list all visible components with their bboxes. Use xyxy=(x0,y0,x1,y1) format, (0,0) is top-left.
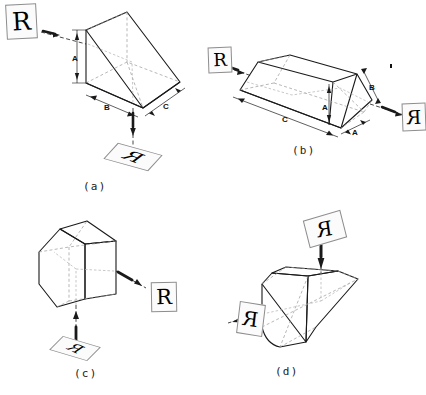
prism-d-hidden-edges xyxy=(262,267,358,347)
image-tile-b-output-glyph: R xyxy=(407,107,422,126)
dimension-label-b-A-vertical: A xyxy=(322,103,328,112)
image-tile-d-output-glyph: R xyxy=(242,308,259,330)
image-tile-a-input: R xyxy=(5,3,38,40)
caption-d: (d) xyxy=(275,365,298,378)
prism-b-front-face xyxy=(240,62,357,128)
prism-a-internal-ray xyxy=(88,44,133,104)
stray-mark xyxy=(390,64,392,68)
caption-a: (a) xyxy=(83,180,106,193)
prism-b-right-end-face xyxy=(341,74,372,128)
dimension-label-b-C: C xyxy=(282,115,288,124)
prism-d-roof-face xyxy=(306,271,358,342)
panel-c-drawing xyxy=(10,205,210,395)
prism-c-front-face xyxy=(39,229,85,307)
image-tile-b-input: R xyxy=(208,47,233,74)
prism-d-top-face xyxy=(272,267,338,276)
dimension-label-b-B: B xyxy=(369,83,375,92)
dimension-label-a-A: A xyxy=(72,54,78,63)
image-tile-b-output: R xyxy=(402,103,426,132)
panel-b-drawing: C A A B xyxy=(200,20,416,200)
image-tile-d-input-glyph: R xyxy=(316,218,334,241)
prism-c-outgoing-ray xyxy=(116,271,146,288)
panel-b-dove-prism: C A A B R R xyxy=(200,20,416,200)
dimension-label-a-C: C xyxy=(163,102,169,111)
prism-a-hypotenuse-face xyxy=(86,12,180,108)
prism-c-internal-ray xyxy=(54,252,114,305)
prism-b-top-face xyxy=(258,55,357,82)
prism-a-incoming-ray xyxy=(41,31,86,44)
image-tile-d-output: R xyxy=(236,301,266,337)
dimension-label-a-B: B xyxy=(104,103,110,112)
caption-c: (c) xyxy=(74,367,97,380)
prism-c-hidden-edges xyxy=(39,221,116,307)
dimension-label-b-A-base: A xyxy=(352,128,358,137)
panel-c-pentaprism: R R (c) xyxy=(10,205,210,395)
prism-c-roof-face xyxy=(60,221,116,244)
image-tile-c-output: R xyxy=(151,282,178,312)
image-tile-a-output-glyph: R xyxy=(118,149,147,166)
caption-b: (b) xyxy=(292,144,315,157)
panel-a-right-angle-prism: A B C R R (a) xyxy=(0,0,210,200)
image-tile-c-input-glyph: R xyxy=(63,342,87,355)
panel-d-amici-roof-prism: R R (d) xyxy=(210,205,416,395)
dimension-a-B xyxy=(86,95,138,117)
